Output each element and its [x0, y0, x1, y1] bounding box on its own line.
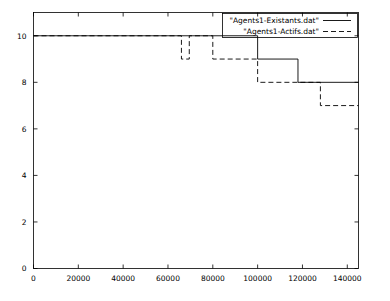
chart-container: 020000400006000080000100000120000140000 … [0, 0, 390, 301]
y-tick-label: 2 [22, 218, 27, 227]
x-tick-label: 100000 [243, 274, 272, 283]
x-tick-label: 140000 [333, 274, 362, 283]
x-tick-label: 40000 [111, 274, 135, 283]
series-path-1 [34, 36, 359, 106]
y-axis-tick-labels: 0246810 [17, 32, 27, 274]
y-tick-label: 6 [22, 125, 27, 134]
series-path-0 [34, 36, 359, 83]
data-series-group [34, 36, 359, 106]
x-tick-label: 120000 [288, 274, 317, 283]
legend-label-1: "Agents1-Actifs.dat" [243, 27, 319, 36]
x-tick-label: 20000 [66, 274, 90, 283]
y-tick-label: 0 [22, 264, 27, 273]
y-tick-label: 8 [22, 78, 27, 87]
x-tick-label: 60000 [156, 274, 180, 283]
x-tick-label: 0 [31, 274, 36, 283]
x-tick-label: 80000 [201, 274, 225, 283]
y-tick-label: 4 [22, 171, 27, 180]
x-axis-tick-labels: 020000400006000080000100000120000140000 [31, 274, 362, 283]
chart-legend: "Agents1-Existants.dat""Agents1-Actifs.d… [223, 14, 358, 38]
y-tick-label: 10 [17, 32, 27, 41]
axis-tickmarks [34, 13, 359, 269]
line-chart: 020000400006000080000100000120000140000 … [0, 0, 390, 301]
plot-frame [34, 13, 359, 269]
legend-label-0: "Agents1-Existants.dat" [230, 16, 319, 25]
